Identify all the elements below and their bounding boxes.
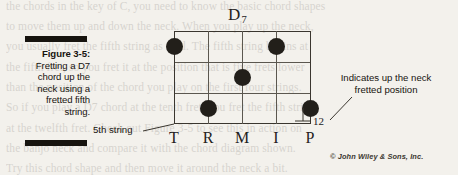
copyright-credit: © John Wiley & Sons, Inc. bbox=[330, 152, 423, 161]
leader-line-5th-string bbox=[143, 124, 174, 131]
indicates-callout-line-1: Indicates up the neck bbox=[316, 72, 456, 84]
leader-line-indicates bbox=[330, 97, 352, 120]
fifth-string-callout-label: 5th string bbox=[93, 124, 132, 135]
fret-number-label: 12 bbox=[313, 115, 324, 127]
figure-container: the chords in the key of C, you need to … bbox=[0, 0, 458, 175]
indicates-callout-label: Indicates up the neck fretted position bbox=[316, 72, 456, 96]
indicates-callout-line-2: fretted position bbox=[316, 84, 456, 96]
